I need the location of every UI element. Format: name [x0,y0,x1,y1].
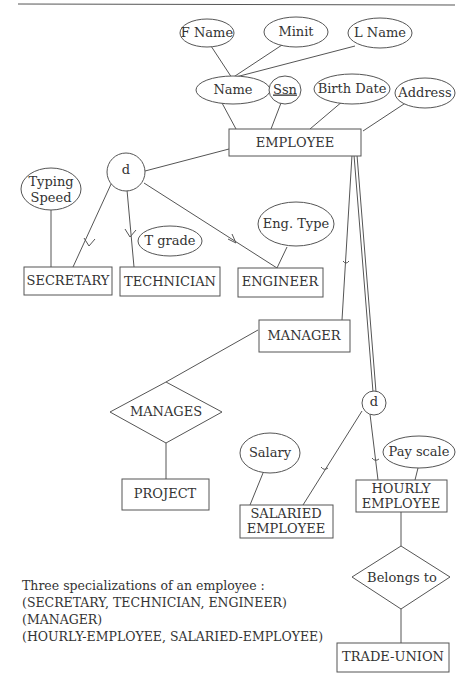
attr-birth-date: Birth Date [314,74,390,104]
attr-pay-scale: Pay scale [383,436,455,468]
svg-text:L Name: L Name [354,25,406,40]
svg-text:Ssn: Ssn [273,82,298,97]
svg-text:PROJECT: PROJECT [134,486,197,501]
attr-eng-type: Eng. Type [258,202,334,246]
svg-text:EMPLOYEE: EMPLOYEE [362,496,440,511]
entity-engineer: ENGINEER [238,268,323,297]
entity-technician: TECHNICIAN [120,267,220,296]
svg-text:ENGINEER: ENGINEER [242,274,320,289]
attr-ssn: Ssn [269,76,301,104]
svg-text:SALARIED: SALARIED [250,506,321,521]
caption-line-3: (MANAGER) [22,611,323,628]
svg-text:T grade: T grade [144,233,195,248]
caption-line-2: (SECRETARY, TECHNICIAN, ENGINEER) [22,594,323,611]
svg-text:SECRETARY: SECRETARY [27,273,110,288]
svg-text:Address: Address [397,85,451,100]
svg-text:Typing: Typing [28,174,73,189]
caption: Three specializations of an employee : (… [22,577,323,645]
svg-text:Birth Date: Birth Date [318,81,387,96]
attr-minit: Minit [264,17,328,47]
svg-text:Speed: Speed [31,190,72,205]
svg-text:Pay scale: Pay scale [389,444,450,459]
svg-text:TECHNICIAN: TECHNICIAN [124,274,216,289]
top-rule [18,4,455,5]
attr-typing-speed: Typing Speed [21,168,81,210]
relationship-belongs-to: Belongs to [352,546,450,609]
attr-salary: Salary [240,433,300,473]
svg-text:HOURLY: HOURLY [371,481,431,496]
specialization-circle-job: d [107,153,145,191]
caption-line-1: Three specializations of an employee : [22,577,323,594]
attr-address: Address [395,78,455,108]
svg-text:Salary: Salary [249,445,292,460]
svg-text:TRADE-UNION: TRADE-UNION [342,649,444,664]
svg-text:Eng. Type: Eng. Type [263,216,330,231]
svg-text:d: d [370,394,378,409]
entity-secretary: SECRETARY [24,267,112,295]
entity-trade-union: TRADE-UNION [337,643,449,672]
specialization-circle-pay: d [362,391,386,415]
entity-employee: EMPLOYEE [229,129,361,156]
relationship-manages: MANAGES [110,382,222,443]
svg-text:Name: Name [213,82,252,97]
caption-line-4: (HOURLY-EMPLOYEE, SALARIED-EMPLOYEE) [22,628,323,645]
svg-text:Minit: Minit [278,24,314,39]
attr-t-grade: T grade [138,226,202,256]
svg-text:EMPLOYEE: EMPLOYEE [247,521,325,536]
svg-text:F Name: F Name [181,25,234,40]
attr-lname: L Name [348,18,412,48]
svg-text:Belongs to: Belongs to [367,570,437,585]
svg-text:MANAGER: MANAGER [267,328,341,343]
attr-name: Name [196,76,270,104]
svg-text:EMPLOYEE: EMPLOYEE [256,135,334,150]
entity-hourly-employee: HOURLY EMPLOYEE [356,480,447,512]
attr-fname: F Name [180,19,234,47]
entity-project: PROJECT [122,479,209,510]
entity-manager: MANAGER [259,320,350,352]
svg-text:MANAGES: MANAGES [130,404,202,419]
svg-text:d: d [122,162,130,177]
entity-salaried-employee: SALARIED EMPLOYEE [240,505,333,538]
